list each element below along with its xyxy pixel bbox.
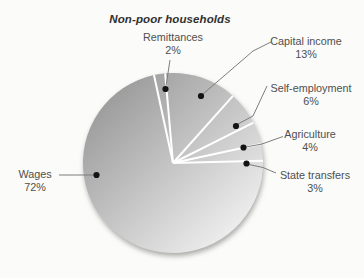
slice-label-wages: Wages 72% <box>18 168 51 193</box>
slice-percent-text: 13% <box>270 48 341 61</box>
callout-dot-state-transfers <box>243 160 249 166</box>
slice-percent-text: 4% <box>284 141 336 154</box>
slice-label-text: State transfers <box>280 169 350 182</box>
slice-label-state-transfers: State transfers 3% <box>280 169 350 194</box>
slice-percent-text: 6% <box>270 95 351 108</box>
slice-label-text: Wages <box>18 168 51 181</box>
callout-dot-self-employment <box>233 123 239 129</box>
slice-percent-text: 72% <box>18 181 51 194</box>
pie-chart-figure: Non-poor households Capital income 13% S… <box>0 0 364 278</box>
slice-label-remittances: Remittances 2% <box>143 31 203 56</box>
callout-dot-capital-income <box>198 93 204 99</box>
slice-percent-text: 2% <box>143 44 203 57</box>
slice-label-text: Remittances <box>143 31 203 44</box>
slice-label-self-employment: Self-employment 6% <box>270 82 351 107</box>
pie <box>83 73 263 253</box>
slice-label-capital-income: Capital income 13% <box>270 35 341 60</box>
callout-dot-agriculture <box>240 144 246 150</box>
slice-percent-text: 3% <box>280 182 350 195</box>
slice-label-text: Capital income <box>270 35 341 48</box>
slice-label-text: Self-employment <box>270 82 351 95</box>
slice-label-agriculture: Agriculture 4% <box>284 128 336 153</box>
slice-label-text: Agriculture <box>284 128 336 141</box>
callout-dot-remittances <box>162 86 168 92</box>
callout-dot-wages <box>93 172 99 178</box>
